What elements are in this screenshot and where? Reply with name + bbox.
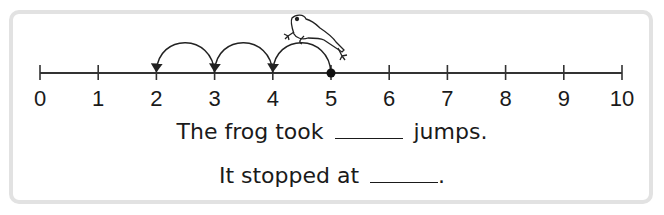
frog-icon (284, 15, 347, 60)
tick-label-1: 1 (92, 86, 104, 111)
question-jumps-suffix: jumps. (414, 119, 488, 144)
tick-label-6: 6 (383, 86, 395, 111)
jump-arc-1 (273, 43, 331, 73)
jumps-answer-blank[interactable] (335, 118, 403, 139)
question-stopped: It stopped at . (0, 162, 664, 188)
tick-label-2: 2 (150, 86, 162, 111)
question-jumps: The frog took jumps. (0, 118, 664, 144)
jump-arc-3 (156, 43, 214, 73)
tick-label-8: 8 (499, 86, 511, 111)
question-stopped-suffix: . (438, 163, 445, 188)
question-stopped-prefix: It stopped at (219, 163, 359, 188)
start-point-dot (327, 69, 336, 78)
number-line-labels: 012345678910 (34, 86, 634, 111)
question-jumps-prefix: The frog took (177, 119, 324, 144)
tick-label-0: 0 (34, 86, 46, 111)
tick-label-10: 10 (610, 86, 634, 111)
tick-label-5: 5 (325, 86, 337, 111)
jump-arc-2 (215, 43, 273, 73)
tick-label-9: 9 (558, 86, 570, 111)
jump-arcs (156, 43, 331, 73)
tick-label-4: 4 (267, 86, 279, 111)
tick-label-3: 3 (208, 86, 220, 111)
stopped-answer-blank[interactable] (370, 162, 438, 183)
tick-label-7: 7 (441, 86, 453, 111)
